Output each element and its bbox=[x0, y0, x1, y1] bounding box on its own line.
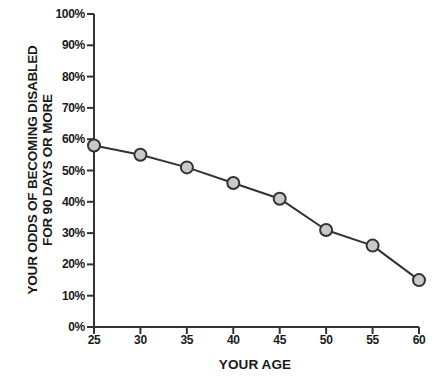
data-point-marker bbox=[367, 240, 379, 252]
x-axis-tick-label: 40 bbox=[213, 333, 253, 347]
data-point-marker bbox=[88, 140, 100, 152]
x-axis-title: YOUR AGE bbox=[85, 357, 425, 372]
x-axis-tick-label: 45 bbox=[260, 333, 300, 347]
x-axis-tick-label: 35 bbox=[167, 333, 207, 347]
plot-area bbox=[0, 0, 437, 381]
data-point-marker bbox=[134, 149, 146, 161]
data-line-series bbox=[94, 146, 419, 281]
axis-lines bbox=[94, 14, 419, 327]
data-point-marker bbox=[274, 193, 286, 205]
x-axis-tick-label: 60 bbox=[399, 333, 437, 347]
data-point-marker bbox=[181, 161, 193, 173]
y-axis-ticks bbox=[87, 14, 94, 327]
data-point-markers bbox=[88, 140, 425, 287]
disability-odds-line-chart: YOUR ODDS OF BECOMING DISABLED FOR 90 DA… bbox=[0, 0, 437, 381]
x-axis-tick-label: 50 bbox=[306, 333, 346, 347]
x-axis-tick-labels: 2530354045505560 bbox=[0, 333, 437, 353]
x-axis-tick-label: 55 bbox=[353, 333, 393, 347]
x-axis-tick-label: 25 bbox=[74, 333, 114, 347]
data-point-marker bbox=[413, 274, 425, 286]
data-point-marker bbox=[320, 224, 332, 236]
data-point-marker bbox=[227, 177, 239, 189]
x-axis-tick-label: 30 bbox=[120, 333, 160, 347]
